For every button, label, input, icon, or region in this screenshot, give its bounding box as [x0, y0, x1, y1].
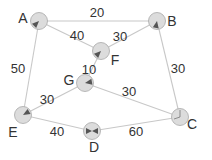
edge-weight-label: 50	[11, 61, 25, 76]
edges-layer	[23, 21, 180, 131]
node-label-g: G	[64, 72, 75, 88]
node-e[interactable]	[15, 107, 32, 124]
node-g[interactable]	[77, 75, 94, 92]
edge-f-b	[101, 21, 157, 51]
node-b[interactable]	[149, 13, 166, 30]
edge-weight-label: 30	[40, 92, 54, 107]
edge-weight-label: 30	[122, 84, 136, 99]
node-c[interactable]	[172, 109, 189, 126]
node-label-b: B	[167, 13, 176, 29]
edge-weight-label: 40	[70, 28, 84, 43]
node-d[interactable]	[84, 123, 101, 140]
edge-weight-label: 20	[90, 5, 104, 20]
node-label-a: A	[18, 10, 28, 26]
node-f[interactable]	[93, 43, 110, 60]
node-a[interactable]	[31, 13, 48, 30]
edge-weight-label: 40	[50, 124, 64, 139]
node-label-e: E	[8, 124, 17, 140]
edge-weight-label: 30	[171, 61, 185, 76]
edge-a-e	[23, 21, 39, 115]
edge-weight-label: 30	[113, 29, 127, 44]
node-label-f: F	[111, 52, 120, 68]
node-label-c: C	[187, 116, 197, 132]
edge-weight-label: 60	[129, 124, 143, 139]
node-label-d: D	[89, 139, 99, 155]
nodes-layer	[15, 13, 189, 140]
graph-diagram: 20403050301030304060 ABCDEFG	[0, 0, 212, 160]
